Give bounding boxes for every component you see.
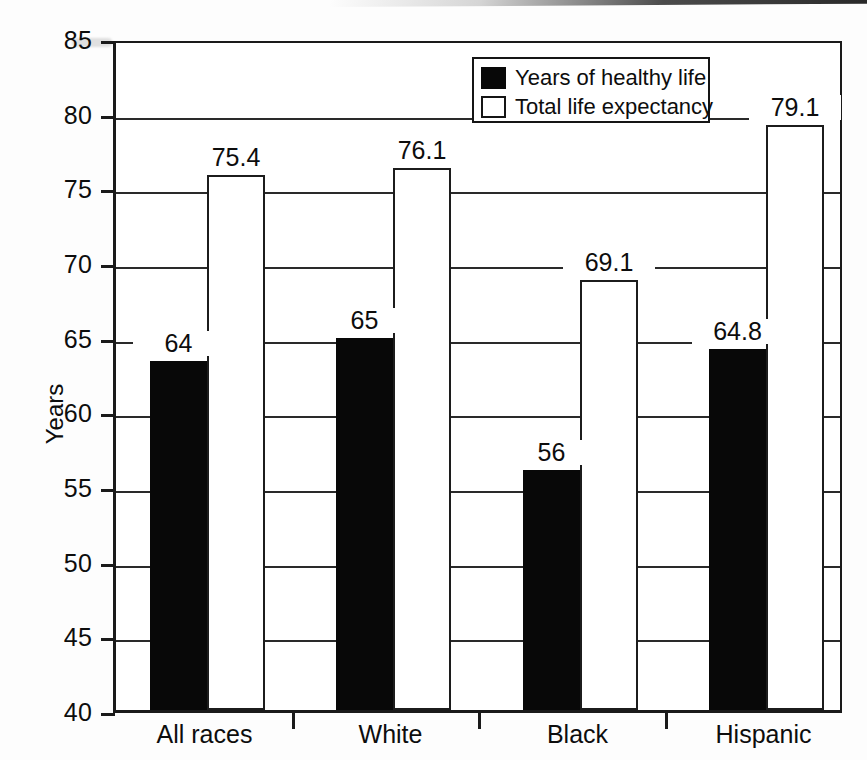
legend-item-life-expectancy: Total life expectancy [481, 92, 701, 121]
bar-value-label: 79.1 [749, 95, 841, 120]
bar-value-label: 75.4 [190, 145, 282, 170]
bar-years-of-healthy-life [336, 338, 393, 710]
bar-total-life-expectancy [393, 168, 451, 710]
bar-value-label: 56 [506, 440, 597, 465]
x-axis-category-label-hispanic: Hispanic [664, 722, 864, 747]
y-axis-tick-label: 55 [46, 476, 92, 501]
scan-artifact-top-edge [330, 0, 867, 7]
y-axis-tick-label: 60 [46, 401, 92, 426]
y-axis-tick-label: 85 [46, 28, 92, 53]
bar-total-life-expectancy [580, 280, 638, 710]
y-axis-tick-mark [101, 713, 115, 716]
y-axis-tick-label: 40 [46, 700, 92, 725]
y-axis-tick-label: 80 [46, 103, 92, 128]
bar-value-label: 64 [133, 331, 224, 356]
bar-value-label: 76.1 [376, 138, 468, 163]
bar-years-of-healthy-life [523, 470, 580, 710]
legend-swatch-filled-square-icon [481, 67, 506, 89]
legend-item-healthy-life: Years of healthy life [481, 63, 701, 92]
bar-value-label: 69.1 [563, 250, 655, 275]
y-axis-tick-label: 50 [46, 551, 92, 576]
chart-legend: Years of healthy life Total life expecta… [472, 57, 710, 123]
chart-container: Years 85807570656055504540 6475.46576.15… [0, 0, 867, 760]
bar-years-of-healthy-life [709, 349, 766, 710]
x-axis-category-label-all-races: All races [105, 722, 305, 747]
bar-years-of-healthy-life [150, 361, 207, 710]
y-axis-tick-label: 75 [46, 177, 92, 202]
legend-label-life-expectancy: Total life expectancy [515, 96, 713, 118]
y-axis-tick-label: 45 [46, 625, 92, 650]
bar-value-label: 64.8 [692, 319, 783, 344]
y-axis-tick-label: 70 [46, 252, 92, 277]
bar-value-label: 65 [319, 308, 410, 333]
bar-total-life-expectancy [766, 125, 824, 710]
bar-total-life-expectancy [207, 175, 265, 710]
legend-swatch-outlined-square-icon [481, 96, 506, 118]
plot-area [113, 41, 842, 713]
x-axis-category-label-white: White [291, 722, 491, 747]
y-axis-tick-label: 65 [46, 327, 92, 352]
legend-label-healthy-life: Years of healthy life [515, 67, 706, 89]
x-axis-category-label-black: Black [478, 722, 678, 747]
